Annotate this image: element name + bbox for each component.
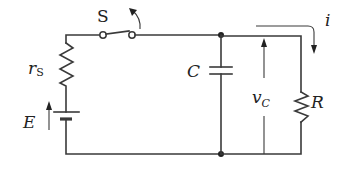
switch-label: S <box>97 6 109 26</box>
left-wire <box>66 35 101 43</box>
capacitor-voltage-arrow-icon <box>261 38 267 154</box>
load-resistor-r <box>295 92 308 122</box>
current-label: i <box>325 10 330 30</box>
capacitor-c <box>210 35 232 154</box>
switch-s[interactable] <box>100 31 221 38</box>
circuit-diagram: S rS E C vC R i <box>0 0 352 175</box>
source-resistor-rs <box>60 43 73 112</box>
battery-source <box>54 112 221 154</box>
capacitor-voltage-label: vC <box>252 87 271 110</box>
emf-label: E <box>22 112 36 132</box>
capacitor-label: C <box>187 61 200 81</box>
load-resistor-label: R <box>310 92 324 112</box>
switch-action-arrow-icon <box>129 8 140 29</box>
emf-arrow-icon <box>46 101 52 130</box>
current-arrow-icon <box>256 26 317 54</box>
source-resistance-label: rS <box>28 58 44 79</box>
